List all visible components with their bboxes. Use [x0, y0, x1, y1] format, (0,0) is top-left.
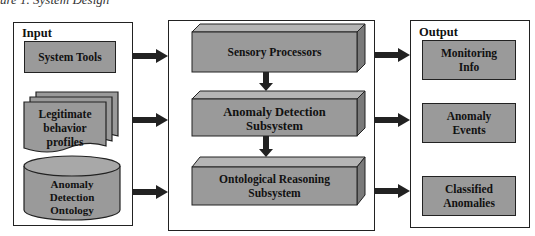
flow-arrows [0, 0, 535, 236]
